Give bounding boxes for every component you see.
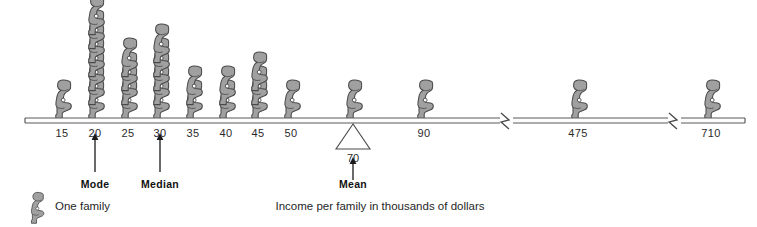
axis-tick-35: 35 bbox=[186, 127, 199, 139]
legend-family-icon bbox=[31, 192, 43, 223]
marker-arrows bbox=[92, 133, 357, 180]
axis-tick-25: 25 bbox=[121, 127, 134, 139]
fulcrum-triangle bbox=[336, 124, 370, 149]
chart-canvas bbox=[0, 0, 757, 227]
marker-label-median: Median bbox=[141, 178, 179, 190]
figure-stacks bbox=[56, 0, 721, 119]
axis-tick-475: 475 bbox=[568, 127, 588, 139]
axis-tick-50: 50 bbox=[284, 127, 297, 139]
x-axis-caption: Income per family in thousands of dollar… bbox=[275, 200, 484, 212]
fulcrum-value-label: 70 bbox=[347, 152, 359, 164]
axis-tick-20: 20 bbox=[88, 127, 101, 139]
marker-label-mean: Mean bbox=[339, 178, 367, 190]
marker-label-mode: Mode bbox=[81, 178, 110, 190]
legend-label: One family bbox=[55, 200, 110, 212]
axis-tick-40: 40 bbox=[219, 127, 232, 139]
axis-tick-45: 45 bbox=[251, 127, 264, 139]
pictogram-chart: 152025303540455090475710 ModeMedianMean … bbox=[0, 0, 757, 227]
axis-tick-15: 15 bbox=[55, 127, 68, 139]
axis-tick-710: 710 bbox=[701, 127, 721, 139]
axis-tick-30: 30 bbox=[153, 127, 166, 139]
axis-tick-90: 90 bbox=[417, 127, 430, 139]
